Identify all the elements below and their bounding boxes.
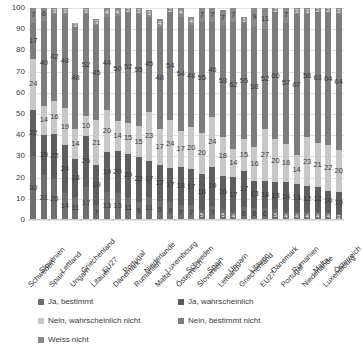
bar-segment[interactable]: 21	[315, 143, 321, 187]
bar-column[interactable]: 172610523	[81, 8, 92, 220]
bar-segment[interactable]: 17	[241, 171, 247, 207]
bar-segment[interactable]: 27	[262, 129, 268, 181]
bar-segment[interactable]: 3	[146, 10, 152, 16]
legend-item[interactable]: Ja, bestimmt	[38, 298, 93, 306]
bar-segment[interactable]: 26	[83, 136, 89, 187]
bar-segment[interactable]: 14	[41, 106, 47, 136]
stacked-bar[interactable]: 142419483	[62, 8, 68, 220]
bar-segment[interactable]: 10	[325, 191, 331, 212]
stacked-bar[interactable]: 172610523	[83, 8, 89, 220]
bar-segment[interactable]: 3	[62, 8, 68, 14]
bar-segment[interactable]: 7	[220, 10, 226, 25]
bar-column[interactable]: 51320602	[270, 8, 281, 220]
bar-segment[interactable]: 2	[315, 8, 321, 12]
bar-segment[interactable]: 4	[188, 17, 194, 25]
bar-segment[interactable]: 20	[51, 179, 57, 220]
bar-segment[interactable]: 44	[104, 17, 110, 110]
bar-segment[interactable]: 13	[104, 192, 110, 220]
bar-segment[interactable]: 3	[51, 8, 57, 14]
stacked-bar[interactable]: 131920444	[104, 8, 110, 220]
bar-segment[interactable]: 7	[178, 205, 184, 220]
bar-column[interactable]: 71924467	[207, 8, 218, 220]
bar-column[interactable]: 91717484	[154, 8, 165, 220]
bar-segment[interactable]: 30	[30, 156, 36, 220]
bar-column[interactable]: 51618537	[218, 8, 229, 220]
bar-column[interactable]: 61316589	[249, 8, 260, 220]
bar-segment[interactable]: 3	[241, 17, 247, 23]
bar-segment[interactable]: 18	[283, 144, 289, 182]
bar-segment[interactable]: 60	[272, 12, 278, 139]
stacked-bar[interactable]: 51820557	[199, 8, 205, 220]
bar-segment[interactable]: 7	[199, 8, 205, 22]
bar-segment[interactable]: 42	[51, 14, 57, 100]
bar-column[interactable]: 302224177	[28, 8, 39, 220]
bar-column[interactable]: 41022642	[323, 8, 334, 220]
bar-segment[interactable]: 3	[304, 8, 310, 14]
bar-segment[interactable]: 52	[125, 12, 131, 122]
bar-segment[interactable]: 12	[315, 187, 321, 212]
bar-segment[interactable]: 14	[294, 155, 300, 184]
bar-segment[interactable]: 21	[41, 175, 47, 220]
bar-segment[interactable]: 3	[136, 8, 142, 14]
bar-column[interactable]: 142419483	[60, 8, 71, 220]
stacked-bar[interactable]: 51618537	[220, 8, 226, 220]
stacked-bar[interactable]: 51320602	[272, 8, 278, 220]
bar-segment[interactable]: 3	[83, 8, 89, 14]
bar-segment[interactable]: 50	[115, 16, 121, 121]
bar-segment[interactable]: 11	[262, 8, 268, 29]
bar-segment[interactable]: 13	[251, 181, 257, 208]
stacked-bar[interactable]: 41418577	[283, 8, 289, 220]
stacked-bar[interactable]: 71921453	[93, 8, 99, 220]
bar-segment[interactable]: 18	[72, 159, 78, 197]
bar-column[interactable]: 61715553	[239, 8, 250, 220]
bar-segment[interactable]: 24	[209, 117, 215, 166]
bar-segment[interactable]: 9	[136, 202, 142, 220]
bar-column[interactable]: 111723453	[144, 8, 155, 220]
bar-segment[interactable]: 12	[304, 186, 310, 211]
stacked-bar[interactable]: 41221632	[315, 8, 321, 220]
stacked-bar[interactable]: 61316589	[251, 8, 257, 220]
bar-segment[interactable]: 2	[72, 23, 78, 27]
bar-segment[interactable]: 19	[104, 152, 110, 192]
bar-segment[interactable]: 20	[336, 150, 342, 192]
bar-segment[interactable]: 15	[136, 126, 142, 157]
bar-segment[interactable]: 4	[104, 8, 110, 16]
bar-segment[interactable]: 13	[115, 193, 121, 220]
bar-segment[interactable]: 3	[336, 8, 342, 14]
legend-item[interactable]: Ja, wahrscheinlich	[178, 298, 253, 306]
stacked-bar[interactable]: 112015522	[125, 8, 131, 220]
stacked-bar[interactable]: 91724542	[167, 8, 173, 220]
bar-segment[interactable]: 63	[315, 12, 321, 143]
bar-segment[interactable]: 24	[62, 145, 68, 192]
stacked-bar[interactable]: 71720484	[188, 8, 194, 220]
stacked-bar[interactable]: 61715553	[241, 8, 247, 220]
stacked-bar[interactable]: 92215553	[136, 8, 142, 220]
stacked-bar[interactable]: 132014504	[115, 8, 121, 220]
bar-segment[interactable]: 17	[157, 129, 163, 165]
bar-segment[interactable]: 9	[251, 8, 257, 27]
bar-segment[interactable]: 54	[167, 12, 173, 120]
bar-segment[interactable]: 22	[30, 110, 36, 157]
bar-segment[interactable]: 15	[241, 139, 247, 171]
bar-segment[interactable]: 14	[262, 181, 268, 208]
bar-column[interactable]: 41314673	[291, 8, 302, 220]
bar-column[interactable]: 71921453	[91, 8, 102, 220]
bar-segment[interactable]: 67	[294, 14, 300, 155]
bar-segment[interactable]: 4	[115, 8, 121, 16]
bar-column[interactable]: 92215553	[133, 8, 144, 220]
bar-segment[interactable]: 16	[220, 176, 226, 210]
bar-segment[interactable]: 7	[30, 8, 36, 23]
bar-segment[interactable]: 20	[199, 133, 205, 173]
bar-segment[interactable]: 17	[30, 23, 36, 59]
legend-item[interactable]: Nein, bestimmt nicht	[178, 317, 260, 325]
bar-segment[interactable]: 58	[251, 27, 257, 148]
bar-column[interactable]: 71720484	[186, 8, 197, 220]
stacked-bar[interactable]: 41314673	[294, 8, 300, 220]
bar-segment[interactable]: 16	[251, 147, 257, 180]
bar-segment[interactable]: 45	[146, 17, 152, 112]
bar-segment[interactable]: 13	[272, 182, 278, 210]
stacked-bar[interactable]: 111723453	[146, 8, 152, 220]
bar-segment[interactable]: 18	[199, 174, 205, 210]
bar-segment[interactable]: 17	[83, 187, 89, 220]
bar-segment[interactable]: 48	[157, 27, 163, 129]
